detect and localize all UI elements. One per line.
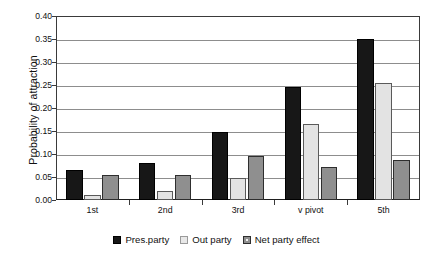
bar-chart-figure: Probability of attraction 0.000.050.100.… bbox=[0, 0, 433, 259]
gridline bbox=[57, 155, 419, 156]
x-axis-tick-label: 5th bbox=[377, 206, 389, 215]
y-axis-tick-label: 0.10 bbox=[18, 150, 52, 159]
gridline bbox=[57, 109, 419, 110]
legend-swatch-icon bbox=[113, 236, 121, 244]
gridline bbox=[57, 63, 419, 64]
y-axis-tick-mark bbox=[52, 16, 56, 17]
y-axis-tick-mark bbox=[52, 200, 56, 201]
y-axis-tick-mark bbox=[52, 131, 56, 132]
x-axis-tick-label: 1st bbox=[87, 206, 99, 215]
legend-item: Out party bbox=[180, 235, 231, 245]
x-axis-tick-label: 3rd bbox=[232, 206, 245, 215]
gridline bbox=[57, 132, 419, 133]
y-axis-tick-label: 0.25 bbox=[18, 81, 52, 90]
y-axis-tick-mark bbox=[52, 62, 56, 63]
y-axis-tick-mark bbox=[52, 154, 56, 155]
legend-label: Pres.party bbox=[125, 235, 169, 245]
y-axis-tick-label: 0.35 bbox=[18, 35, 52, 44]
plot-area bbox=[56, 16, 420, 200]
legend-swatch-icon bbox=[243, 236, 251, 244]
y-axis-tick-mark bbox=[52, 108, 56, 109]
y-axis-tick-label: 0.20 bbox=[18, 104, 52, 113]
y-axis-tick-mark bbox=[52, 177, 56, 178]
y-axis-tick-label: 0.30 bbox=[18, 58, 52, 67]
y-axis-tick-mark bbox=[52, 85, 56, 86]
x-axis-tick-mark bbox=[202, 200, 203, 205]
chart-legend: Pres.partyOut partyNet party effect bbox=[0, 232, 433, 248]
y-axis-tick-label: 0.05 bbox=[18, 173, 52, 182]
x-axis-tick-label: v pivot bbox=[298, 206, 323, 215]
x-axis-tick-label: 2nd bbox=[158, 206, 173, 215]
legend-swatch-icon bbox=[180, 236, 188, 244]
y-axis-tick-mark bbox=[52, 39, 56, 40]
legend-label: Out party bbox=[192, 235, 231, 245]
gridline bbox=[57, 178, 419, 179]
x-axis-tick-mark bbox=[347, 200, 348, 205]
legend-label: Net party effect bbox=[255, 235, 320, 245]
gridline bbox=[57, 40, 419, 41]
y-axis-tick-labels: 0.000.050.100.150.200.250.300.350.40 bbox=[14, 16, 52, 200]
legend-item: Net party effect bbox=[243, 235, 320, 245]
x-axis-tick-labels: 1st2nd3rdv pivot5th bbox=[56, 206, 420, 220]
y-axis-tick-label: 0.40 bbox=[18, 12, 52, 21]
gridline bbox=[57, 86, 419, 87]
y-axis-tick-label: 0.00 bbox=[18, 196, 52, 205]
legend-item: Pres.party bbox=[113, 235, 169, 245]
x-axis-tick-mark bbox=[129, 200, 130, 205]
x-axis-tick-mark bbox=[274, 200, 275, 205]
y-axis-tick-label: 0.15 bbox=[18, 127, 52, 136]
